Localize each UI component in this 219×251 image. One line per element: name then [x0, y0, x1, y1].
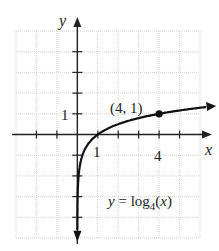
log-graph: x y 1 4 1 (4, 1) y = log4(x)	[0, 0, 219, 251]
log-curve	[77, 107, 206, 230]
axes	[12, 17, 212, 244]
annotations	[73, 102, 216, 242]
y-axis-label: y	[57, 12, 67, 30]
x-tick-label-1: 1	[93, 144, 101, 160]
point-label: (4, 1)	[110, 100, 143, 117]
x-axis-label: x	[204, 141, 212, 158]
x-tick-label-4: 4	[154, 148, 162, 164]
y-tick-label-1: 1	[61, 107, 69, 123]
